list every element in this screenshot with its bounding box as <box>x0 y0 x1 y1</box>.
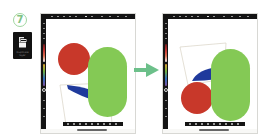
toolbar-button[interactable] <box>63 16 65 17</box>
layers-copy-icon <box>17 36 28 49</box>
drawing-canvas[interactable] <box>46 19 135 129</box>
sidebar-tool[interactable] <box>43 28 45 29</box>
tool-tile-label: Duplicate layer <box>14 51 31 57</box>
bottom-tool[interactable] <box>97 123 99 124</box>
color-picker-knob[interactable] <box>164 88 168 92</box>
toolbar-button[interactable] <box>197 16 199 17</box>
toolbar-button[interactable] <box>179 16 181 17</box>
bottom-tool[interactable] <box>225 123 227 124</box>
bottom-tool[interactable] <box>79 123 81 124</box>
bottom-tool[interactable] <box>67 123 69 124</box>
bottom-tool[interactable] <box>115 123 117 124</box>
sidebar-tool[interactable] <box>165 100 167 101</box>
bottom-tool[interactable] <box>201 123 203 124</box>
toolbar-button[interactable] <box>85 16 87 17</box>
bottom-tool[interactable] <box>85 123 87 124</box>
color-slider[interactable] <box>43 64 45 86</box>
arrow-right-icon <box>134 63 160 77</box>
bottom-tool[interactable] <box>73 123 75 124</box>
toolbar-button[interactable] <box>185 16 187 17</box>
canvas-artwork <box>46 19 135 129</box>
green-pill-shape <box>88 47 127 117</box>
sidebar-tool[interactable] <box>43 23 45 24</box>
drawing-canvas[interactable] <box>168 19 257 129</box>
after-screen <box>162 13 258 134</box>
sidebar-tool[interactable] <box>43 33 45 34</box>
toolbar-button[interactable] <box>247 16 249 17</box>
bottom-tool[interactable] <box>189 123 191 124</box>
green-pill-shape <box>211 49 250 121</box>
color-picker-knob[interactable] <box>42 88 46 92</box>
bottom-tool[interactable] <box>237 123 239 124</box>
sidebar-tool[interactable] <box>43 100 45 101</box>
canvas-artwork <box>168 19 257 129</box>
sidebar-tool[interactable] <box>165 23 167 24</box>
bottom-tool[interactable] <box>207 123 209 124</box>
bottom-toolbar <box>63 122 123 126</box>
duplicate-layer-tool-tile: Duplicate layer <box>13 32 32 59</box>
toolbar-button[interactable] <box>51 16 53 17</box>
bottom-tool[interactable] <box>103 123 105 124</box>
brush-size-slider[interactable] <box>165 44 167 62</box>
bottom-tool[interactable] <box>109 123 111 124</box>
bottom-tool[interactable] <box>231 123 233 124</box>
toolbar-button[interactable] <box>117 16 119 17</box>
toolbar-button[interactable] <box>91 16 93 17</box>
red-circle-shape <box>181 82 213 114</box>
toolbar-button[interactable] <box>207 16 209 17</box>
toolbar-button[interactable] <box>69 16 71 17</box>
sidebar-tool[interactable] <box>165 28 167 29</box>
toolbar-button[interactable] <box>101 16 103 17</box>
home-indicator <box>199 129 229 131</box>
toolbar-button[interactable] <box>109 16 111 17</box>
toolbar-button[interactable] <box>231 16 233 17</box>
before-screen <box>40 13 136 134</box>
step-number-badge: 7 <box>13 13 27 27</box>
toolbar-button[interactable] <box>223 16 225 17</box>
toolbar-button[interactable] <box>191 16 193 17</box>
sidebar-tool[interactable] <box>43 108 45 109</box>
toolbar-button[interactable] <box>213 16 215 17</box>
toolbar-button[interactable] <box>75 16 77 17</box>
brush-size-slider[interactable] <box>43 44 45 62</box>
bottom-tool[interactable] <box>219 123 221 124</box>
bottom-tool[interactable] <box>213 123 215 124</box>
sidebar-tool[interactable] <box>165 38 167 39</box>
sidebar-tool[interactable] <box>165 116 167 117</box>
bottom-toolbar <box>185 122 245 126</box>
bottom-tool[interactable] <box>195 123 197 124</box>
home-indicator <box>77 129 107 131</box>
bottom-tool[interactable] <box>91 123 93 124</box>
sidebar-tool[interactable] <box>43 116 45 117</box>
toolbar-button[interactable] <box>173 16 175 17</box>
sidebar-tool[interactable] <box>165 33 167 34</box>
toolbar-button[interactable] <box>239 16 241 17</box>
red-circle-shape <box>58 43 90 75</box>
toolbar-button[interactable] <box>125 16 127 17</box>
sidebar-tool[interactable] <box>43 38 45 39</box>
color-slider[interactable] <box>165 64 167 86</box>
sidebar-tool[interactable] <box>165 108 167 109</box>
toolbar-button[interactable] <box>57 16 59 17</box>
